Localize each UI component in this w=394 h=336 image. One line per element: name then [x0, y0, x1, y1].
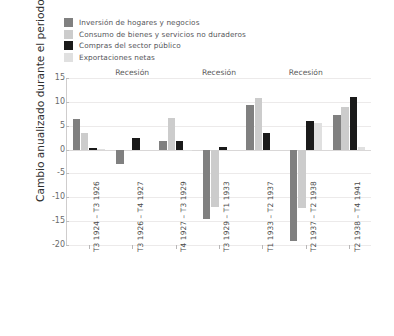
bar [73, 119, 81, 150]
gridline [67, 173, 371, 174]
recession-annotation: Recesión [289, 68, 323, 77]
bar [298, 150, 306, 209]
bar [219, 147, 227, 149]
y-tick-label: 5 [25, 121, 65, 130]
y-tick-mark [66, 102, 69, 103]
y-tick-mark [66, 245, 69, 246]
zero-line [67, 150, 371, 151]
bar [263, 133, 271, 149]
chart-legend: Inversión de hogares y negociosConsumo d… [64, 17, 246, 63]
x-tick-mark [176, 245, 177, 249]
x-tick-mark [262, 245, 263, 249]
y-tick-label: -15 [25, 216, 65, 225]
y-tick-mark [66, 173, 69, 174]
y-tick-label: -20 [25, 240, 65, 249]
bar [246, 105, 254, 149]
bar [211, 150, 219, 208]
x-tick-mark [349, 245, 350, 249]
legend-item: Consumo de bienes y servicios no durader… [64, 29, 246, 41]
bar [314, 123, 322, 150]
y-tick-mark [66, 150, 69, 151]
y-axis-line [66, 78, 67, 245]
gridline [67, 102, 371, 103]
legend-label: Compras del sector público [79, 41, 181, 50]
legend-item: Inversión de hogares y negocios [64, 17, 246, 29]
bar [255, 98, 263, 150]
legend-label: Exportaciones netas [79, 53, 155, 62]
y-tick-label: -5 [25, 168, 65, 177]
x-tick-label: T4 1927 – T3 1929 [179, 181, 188, 252]
bar [333, 115, 341, 149]
bar [341, 107, 349, 149]
bar [89, 148, 97, 150]
recession-annotation: Recesión [115, 68, 149, 77]
bar [350, 97, 358, 150]
y-tick-mark [66, 221, 69, 222]
bar [306, 121, 314, 149]
x-tick-label: T3 1929 – T1 1933 [222, 181, 231, 252]
legend-swatch-icon [64, 41, 73, 50]
x-tick-mark [306, 245, 307, 249]
y-tick-label: 0 [25, 145, 65, 154]
y-tick-label: 10 [25, 97, 65, 106]
y-tick-mark [66, 126, 69, 127]
x-tick-label: T2 1938 – T4 1941 [353, 181, 362, 252]
y-tick-label: 15 [25, 73, 65, 82]
plot-area: 151050-5-10-15-20 [67, 78, 371, 245]
y-tick-mark [66, 78, 69, 79]
x-tick-label: T3 1926 – T4 1927 [136, 181, 145, 252]
gridline [67, 78, 371, 79]
legend-swatch-icon [64, 53, 73, 62]
bar [168, 118, 176, 149]
x-tick-label: T3 1924 – T3 1926 [92, 181, 101, 252]
y-tick-mark [66, 197, 69, 198]
legend-item: Exportaciones netas [64, 52, 246, 64]
chart-container: Inversión de hogares y negociosConsumo d… [0, 0, 394, 336]
x-tick-mark [132, 245, 133, 249]
x-tick-label: T2 1937 – T2 1938 [309, 181, 318, 252]
bar [132, 138, 140, 149]
bar [97, 149, 105, 150]
x-tick-mark [219, 245, 220, 249]
legend-label: Consumo de bienes y servicios no durader… [79, 30, 246, 39]
x-tick-mark [89, 245, 90, 249]
bar [203, 150, 211, 220]
legend-item: Compras del sector público [64, 40, 246, 52]
x-tick-label: T1 1933 – T2 1937 [266, 181, 275, 252]
bar [184, 150, 192, 151]
bar [81, 133, 89, 149]
gridline [67, 197, 371, 198]
gridline [67, 221, 371, 222]
bar [116, 150, 124, 164]
bar [358, 147, 366, 149]
legend-label: Inversión de hogares y negocios [79, 18, 200, 27]
y-tick-label: -10 [25, 192, 65, 201]
recession-annotation: Recesión [202, 68, 236, 77]
bar [159, 141, 167, 149]
bar [290, 150, 298, 242]
gridline [67, 126, 371, 127]
legend-swatch-icon [64, 30, 73, 39]
legend-swatch-icon [64, 18, 73, 27]
bar [176, 141, 184, 150]
